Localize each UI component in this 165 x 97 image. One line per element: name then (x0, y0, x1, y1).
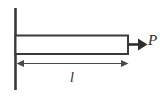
dimension-right-arrowhead (121, 60, 129, 67)
force-label: P (148, 33, 157, 48)
mechanics-figure: P l (0, 0, 165, 97)
length-label: l (70, 71, 74, 85)
bar-rectangle (16, 36, 129, 55)
force-arrowhead (138, 39, 148, 51)
dimension-left-arrowhead (17, 60, 25, 67)
figure-canvas (0, 0, 165, 97)
